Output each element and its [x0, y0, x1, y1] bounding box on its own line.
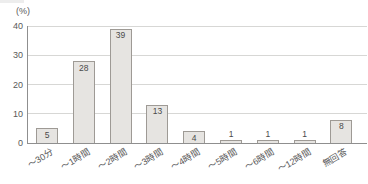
x-tick-label-5: 〜4時間 — [169, 147, 202, 172]
bar-value-label-9: 8 — [325, 121, 357, 131]
bar-value-label-3: 39 — [105, 30, 137, 40]
y-tick-label-0: 0 — [0, 138, 23, 148]
bar-value-label-8: 1 — [289, 129, 321, 139]
x-tick-label-8: 〜12時間 — [276, 147, 313, 174]
plot-area: 528391341118 — [27, 26, 367, 144]
x-tick-label-2: 〜1時間 — [59, 147, 92, 172]
y-axis-unit-label: (%) — [16, 6, 30, 16]
screenshot-edge-artifact — [0, 0, 24, 3]
bar-8 — [294, 140, 316, 143]
x-tick-label-1: 〜30分 — [26, 147, 55, 170]
gridline-30 — [28, 55, 367, 56]
y-tick-label-20: 20 — [0, 80, 23, 90]
bar-3 — [110, 29, 132, 143]
bar-value-label-7: 1 — [252, 129, 284, 139]
gridline-40 — [28, 26, 367, 27]
y-tick-label-30: 30 — [0, 50, 23, 60]
x-tick-label-9: 無回答 — [321, 147, 349, 169]
y-tick-label-40: 40 — [0, 21, 23, 31]
bar-value-label-2: 28 — [68, 63, 100, 73]
bar-value-label-4: 13 — [141, 106, 173, 116]
bar-6 — [220, 140, 242, 143]
y-tick-label-10: 10 — [0, 109, 23, 119]
bar-value-label-1: 5 — [31, 130, 63, 140]
bar-value-label-5: 4 — [178, 133, 210, 143]
x-tick-label-7: 〜6時間 — [243, 147, 276, 172]
bar-2 — [73, 61, 95, 143]
bar-value-label-6: 1 — [215, 129, 247, 139]
x-tick-label-4: 〜3時間 — [133, 147, 166, 172]
x-tick-label-6: 〜5時間 — [206, 147, 239, 172]
bar-chart: (%) 528391341118 010203040 〜30分〜1時間〜2時間〜… — [0, 0, 368, 184]
x-tick-label-3: 〜2時間 — [96, 147, 129, 172]
bar-7 — [257, 140, 279, 143]
